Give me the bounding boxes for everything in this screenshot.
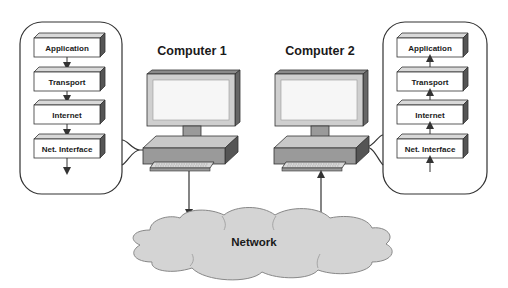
layer-box-internet: Internet [34, 100, 105, 124]
layer-box-application: Application [397, 33, 468, 57]
layer-label: Application [45, 44, 89, 53]
computer-1: Computer 1 [143, 44, 240, 213]
layer-box-top [34, 100, 105, 105]
layer-label: Internet [52, 111, 82, 120]
keyboard-front [282, 168, 342, 171]
keyboard-front [150, 168, 210, 171]
monitor-top [275, 70, 368, 74]
layer-box-internet: Internet [397, 100, 468, 124]
layer-box-top [397, 33, 468, 38]
monitor-top [147, 70, 240, 74]
base-top [274, 136, 369, 148]
layer-box-top [34, 33, 105, 38]
tcp-ip-diagram: ApplicationTransportInternetNet. Interfa… [0, 0, 508, 288]
monitor-screen [153, 80, 229, 120]
computer-2: Computer 2 [274, 44, 369, 215]
layer-label: Transport [49, 78, 86, 87]
layer-box-transport: Transport [34, 67, 105, 91]
layer-box-top [397, 134, 468, 139]
computer-2-label: Computer 2 [285, 44, 355, 58]
layer-box-top [397, 100, 468, 105]
layer-box-top [34, 134, 105, 139]
network-label: Network [231, 236, 277, 248]
layer-box-application: Application [34, 33, 105, 57]
layer-label: Application [408, 44, 452, 53]
network-cloud: Network [133, 208, 392, 280]
right-protocol-stack: ApplicationTransportInternetNet. Interfa… [383, 22, 487, 194]
computer-1-label: Computer 1 [157, 44, 227, 58]
left-protocol-stack: ApplicationTransportInternetNet. Interfa… [20, 22, 122, 194]
monitor-screen [281, 80, 357, 120]
layer-box-transport: Transport [397, 67, 468, 91]
left-connector [122, 140, 146, 165]
monitor-side [235, 70, 240, 126]
keyboard [150, 162, 214, 168]
monitor-side [363, 70, 368, 126]
layer-label: Transport [412, 78, 449, 87]
keyboard [282, 162, 346, 168]
layer-box-net-interface: Net. Interface [34, 134, 105, 158]
layer-box-net-interface: Net. Interface [397, 134, 468, 158]
layer-label: Net. Interface [405, 145, 456, 154]
layer-label: Net. Interface [42, 145, 93, 154]
base-top [143, 136, 238, 148]
layer-box-top [34, 67, 105, 72]
layer-label: Internet [415, 111, 445, 120]
layer-box-top [397, 67, 468, 72]
